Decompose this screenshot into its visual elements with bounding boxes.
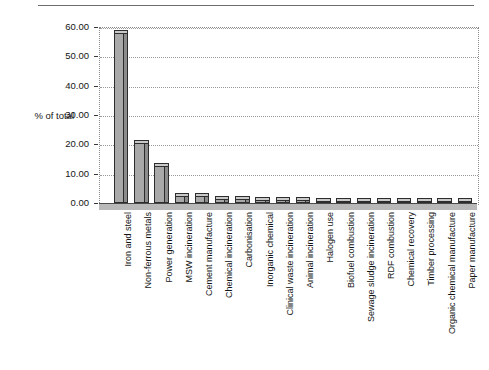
- bar-front-face: [195, 196, 206, 203]
- bar: [458, 27, 473, 207]
- y-tick-label: 50.00: [47, 51, 89, 61]
- x-tick-label: RDF combustion: [386, 212, 396, 279]
- x-tick-label: MSW incineration: [184, 212, 194, 283]
- y-tick-label: 20.00: [47, 139, 89, 149]
- bar: [114, 27, 129, 207]
- x-tick-label: Iron and steel: [123, 212, 133, 267]
- bar-top-face: [377, 198, 392, 202]
- bar: [215, 27, 230, 207]
- bar: [336, 27, 351, 207]
- y-tick-mark: [94, 203, 98, 204]
- x-axis-labels: Iron and steelNon-ferrous metalsPower ge…: [99, 210, 477, 368]
- bar: [175, 27, 190, 207]
- x-tick-label: Chemical recovery: [406, 212, 416, 287]
- bar-side-face: [145, 143, 149, 203]
- bar-front-face: [114, 33, 125, 203]
- x-tick-label: Power generation: [164, 212, 174, 283]
- x-tick-label: Halogen use: [325, 212, 335, 263]
- bar: [276, 27, 291, 207]
- bar-top-face: [114, 30, 129, 34]
- bar: [316, 27, 331, 207]
- bar: [134, 27, 149, 207]
- bar-top-face: [458, 198, 473, 202]
- bar-top-face: [195, 193, 210, 197]
- y-tick-label: 0.00: [47, 198, 89, 208]
- x-tick-label: Clinical waste incineration: [285, 212, 295, 316]
- bar: [357, 27, 372, 207]
- y-tick-label: 30.00: [47, 110, 89, 120]
- x-tick-label: Cement manufacture: [204, 212, 214, 296]
- y-tick-mark: [94, 86, 98, 87]
- bar-top-face: [417, 198, 432, 202]
- bar: [195, 27, 210, 207]
- bar-front-face: [175, 196, 186, 203]
- bar: [255, 27, 270, 207]
- x-tick-label: Carbonisation: [244, 212, 254, 268]
- bar-top-face: [276, 197, 291, 201]
- bar-top-face: [255, 197, 270, 201]
- x-tick-label: Biofuel combustion: [346, 212, 356, 288]
- y-tick-mark: [94, 27, 98, 28]
- bar-top-face: [357, 198, 372, 202]
- bar-front-face: [134, 143, 145, 203]
- x-tick-label: Animal incineration: [305, 212, 315, 288]
- bar-top-face: [215, 196, 230, 200]
- y-tick-mark: [94, 144, 98, 145]
- bar: [296, 27, 311, 207]
- bar-top-face: [296, 197, 311, 201]
- bar-top-face: [175, 193, 190, 197]
- bar-side-face: [165, 166, 169, 203]
- bar: [417, 27, 432, 207]
- x-tick-label: Sewage sludge incineration: [366, 212, 376, 322]
- y-tick-mark: [94, 174, 98, 175]
- bar-top-face: [336, 198, 351, 202]
- bar-top-face: [235, 196, 250, 200]
- bar: [397, 27, 412, 207]
- bar-top-face: [397, 198, 412, 202]
- bar-top-face: [437, 198, 452, 202]
- y-tick-mark: [94, 115, 98, 116]
- x-tick-label: Organic chemical manufacture: [447, 212, 457, 334]
- bar: [235, 27, 250, 207]
- bar-top-face: [316, 198, 331, 202]
- y-tick-mark: [94, 56, 98, 57]
- x-tick-label: Paper manufacture: [467, 212, 477, 289]
- bar: [377, 27, 392, 207]
- bar-side-face: [205, 196, 209, 203]
- bar: [437, 27, 452, 207]
- header-divider: [38, 5, 474, 6]
- y-tick-label: 10.00: [47, 169, 89, 179]
- chart-figure: % of total 0.0010.0020.0030.0040.0050.00…: [0, 0, 489, 370]
- x-tick-label: Non-ferrous metals: [143, 212, 153, 289]
- bar-front-face: [154, 166, 165, 203]
- y-tick-label: 40.00: [47, 81, 89, 91]
- x-tick-label: Inorganic chemical: [265, 212, 275, 287]
- bar-side-face: [185, 196, 189, 203]
- x-tick-label: Timber processing: [426, 212, 436, 286]
- bar-series: [99, 27, 477, 210]
- bar-top-face: [154, 163, 169, 167]
- bar-top-face: [134, 140, 149, 144]
- y-tick-label: 60.00: [47, 22, 89, 32]
- x-tick-label: Chemical incineration: [224, 212, 234, 298]
- bar-side-face: [124, 33, 128, 203]
- bar: [154, 27, 169, 207]
